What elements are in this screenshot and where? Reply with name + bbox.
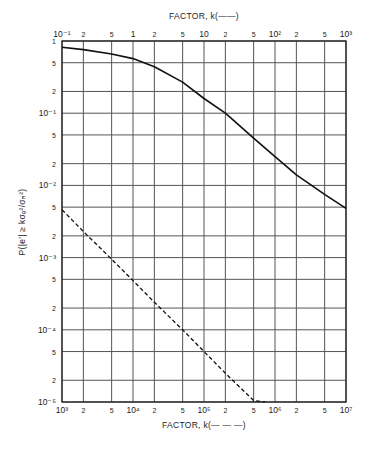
y-tick-label: 2 (52, 161, 56, 168)
bottom-x-tick-label: 10⁵ (198, 405, 211, 415)
dashed-curve (62, 210, 265, 402)
y-tick-label: 5 (52, 60, 56, 67)
grid (62, 41, 346, 402)
bottom-x-tick-label: 2 (81, 407, 85, 414)
top-x-tick-label: 2 (81, 31, 85, 38)
top-x-axis-title: FACTOR, k(——) (169, 11, 239, 21)
top-x-tick-label: 10² (269, 29, 281, 39)
top-x-tick-label: 2 (152, 31, 156, 38)
bottom-x-tick-label: 2 (223, 407, 227, 414)
bottom-x-tick-label: 5 (323, 407, 327, 414)
bottom-x-tick-label: 5 (181, 407, 185, 414)
y-tick-label: 5 (52, 276, 56, 283)
y-tick-label: 2 (52, 88, 56, 95)
top-x-tick-label: 5 (323, 31, 327, 38)
top-x-tick-label: 2 (294, 31, 298, 38)
tick-labels: 10⁻¹10³2255110⁴22551010⁵225510²10⁶225510… (38, 29, 352, 415)
bottom-x-tick-label: 2 (294, 407, 298, 414)
top-x-tick-label: 10 (199, 29, 209, 39)
top-x-tick-label: 2 (223, 31, 227, 38)
y-tick-label: 2 (52, 377, 56, 384)
y-tick-label: 5 (52, 349, 56, 356)
top-x-tick-label: 10³ (340, 29, 352, 39)
y-tick-label: 10⁻⁵ (38, 397, 56, 407)
top-x-tick-label: 5 (181, 31, 185, 38)
y-tick-label: 10⁻⁴ (38, 325, 56, 335)
bottom-x-tick-label: 5 (110, 407, 114, 414)
bottom-x-tick-label: 10³ (56, 405, 68, 415)
bottom-x-tick-label: 10⁶ (269, 405, 282, 415)
y-tick-label: 2 (52, 233, 56, 240)
bottom-x-tick-label: 2 (152, 407, 156, 414)
chart: 10⁻¹10³2255110⁴22551010⁵225510²10⁶225510… (0, 0, 371, 450)
y-tick-label: 10⁻² (39, 180, 56, 190)
y-axis-title: P(|e'| ≥ kσₑ²/σₙ²) (17, 189, 27, 256)
top-x-tick-label: 5 (110, 31, 114, 38)
top-x-tick-label: 1 (131, 29, 136, 39)
bottom-x-tick-label: 10⁴ (126, 405, 139, 415)
y-tick-label: 5 (52, 132, 56, 139)
bottom-x-axis-title: FACTOR, k(— — —) (162, 420, 246, 430)
bottom-x-tick-label: 5 (252, 407, 256, 414)
y-tick-label: 1 (52, 38, 56, 45)
y-tick-label: 5 (52, 204, 56, 211)
y-tick-label: 10⁻³ (39, 253, 56, 263)
y-tick-label: 10⁻¹ (39, 108, 56, 118)
y-tick-label: 2 (52, 305, 56, 312)
bottom-x-tick-label: 10⁷ (340, 405, 353, 415)
top-x-tick-label: 5 (252, 31, 256, 38)
